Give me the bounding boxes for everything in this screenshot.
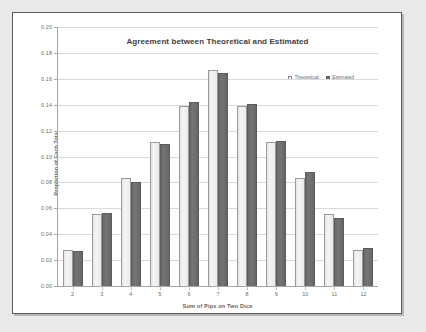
y-axis-tick-label: 0.06	[41, 205, 52, 211]
bar-theoretical[interactable]	[208, 70, 218, 286]
bar-estimated[interactable]	[218, 73, 228, 286]
x-axis-tick-mark	[334, 286, 335, 290]
x-axis-tick-label: 7	[203, 291, 232, 297]
bar-estimated[interactable]	[131, 182, 141, 286]
bar-group: 7	[203, 27, 232, 286]
bar-group: 12	[349, 27, 378, 286]
y-axis-tick-label: 0.12	[41, 128, 52, 134]
x-axis-tick-label: 5	[145, 291, 174, 297]
x-axis-tick-mark	[305, 286, 306, 290]
y-axis-tick-mark	[54, 286, 58, 287]
bar-group: 11	[320, 27, 349, 286]
bar-estimated[interactable]	[102, 213, 112, 286]
bar-estimated[interactable]	[160, 144, 170, 286]
x-axis-tick-label: 10	[291, 291, 320, 297]
y-axis-tick-label: 0.00	[41, 283, 52, 289]
plot-area: 0.000.020.040.060.080.100.120.140.160.18…	[57, 27, 378, 287]
bar-group: 8	[233, 27, 262, 286]
x-axis-tick-mark	[131, 286, 132, 290]
bar-theoretical[interactable]	[92, 214, 102, 286]
bar-theoretical[interactable]	[179, 106, 189, 286]
bar-estimated[interactable]	[73, 251, 83, 286]
x-axis-tick-mark	[73, 286, 74, 290]
bar-theoretical[interactable]	[266, 142, 276, 286]
y-axis-tick-label: 0.04	[41, 231, 52, 237]
x-axis-tick-label: 9	[262, 291, 291, 297]
bar-group: 3	[87, 27, 116, 286]
x-axis-tick-label: 8	[233, 291, 262, 297]
document-frame: Agreement between Theoretical and Estima…	[12, 12, 402, 314]
page-background: Agreement between Theoretical and Estima…	[0, 0, 426, 332]
x-axis-tick-mark	[102, 286, 103, 290]
bar-theoretical[interactable]	[121, 178, 131, 286]
x-axis-tick-label: 2	[58, 291, 87, 297]
x-axis-tick-mark	[247, 286, 248, 290]
bar-group: 5	[145, 27, 174, 286]
x-axis-label: Sum of Pips on Two Dice	[57, 303, 378, 309]
y-axis-tick-label: 0.18	[41, 50, 52, 56]
x-axis-tick-mark	[363, 286, 364, 290]
y-axis-tick-label: 0.02	[41, 257, 52, 263]
bar-estimated[interactable]	[305, 172, 315, 286]
bar-group: 6	[174, 27, 203, 286]
bar-theoretical[interactable]	[150, 142, 160, 286]
y-axis-tick-label: 0.20	[41, 24, 52, 30]
bar-groups: 23456789101112	[58, 27, 378, 286]
x-axis-tick-label: 4	[116, 291, 145, 297]
y-axis-tick-label: 0.14	[41, 102, 52, 108]
bar-group: 9	[262, 27, 291, 286]
bar-group: 2	[58, 27, 87, 286]
bar-theoretical[interactable]	[295, 178, 305, 286]
x-axis-tick-label: 6	[174, 291, 203, 297]
bar-group: 10	[291, 27, 320, 286]
bar-estimated[interactable]	[276, 141, 286, 286]
bar-chart: Agreement between Theoretical and Estima…	[13, 13, 401, 313]
x-axis-tick-mark	[276, 286, 277, 290]
bar-group: 4	[116, 27, 145, 286]
bar-estimated[interactable]	[189, 102, 199, 286]
y-axis-tick-label: 0.10	[41, 154, 52, 160]
bar-theoretical[interactable]	[63, 250, 73, 286]
x-axis-tick-mark	[160, 286, 161, 290]
x-axis-tick-label: 3	[87, 291, 116, 297]
y-axis-tick-label: 0.08	[41, 179, 52, 185]
bar-estimated[interactable]	[334, 218, 344, 286]
y-axis-tick-label: 0.16	[41, 76, 52, 82]
x-axis-tick-label: 12	[349, 291, 378, 297]
bar-theoretical[interactable]	[237, 106, 247, 286]
x-axis-tick-label: 11	[320, 291, 349, 297]
bar-estimated[interactable]	[247, 104, 257, 286]
bar-theoretical[interactable]	[324, 214, 334, 286]
x-axis-tick-mark	[218, 286, 219, 290]
bar-theoretical[interactable]	[353, 250, 363, 286]
x-axis-tick-mark	[189, 286, 190, 290]
bar-estimated[interactable]	[363, 248, 373, 286]
